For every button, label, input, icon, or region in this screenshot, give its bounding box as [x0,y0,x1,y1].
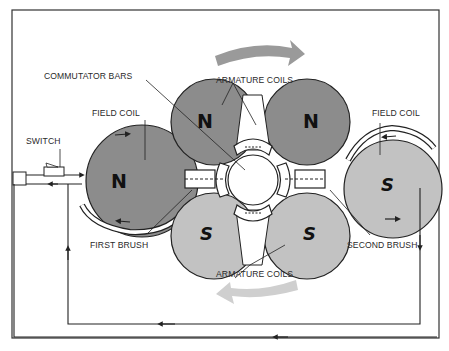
switch[interactable] [44,167,64,176]
rotation-arrow-top [215,40,305,66]
label-field-coil-right: FIELD COIL [372,108,420,118]
switch-lever-icon [46,163,58,167]
label-switch: SWITCH [26,136,61,146]
pole-field-left: N [111,170,127,192]
commutator-core [228,155,278,205]
label-first-brush: FIRST BRUSH [90,240,148,250]
label-second-brush: SECOND BRUSH [347,240,417,250]
label-commutator-bars: COMMUTATOR BARS [44,71,132,81]
pole-armature-top-right: N [303,110,319,132]
pole-field-right: S [381,174,394,195]
pole-armature-top-left: N [197,110,213,132]
terminal [13,172,26,185]
pole-armature-bottom-left: S [200,223,213,244]
rotation-arrow-bottom [216,280,298,304]
pole-armature-bottom-right: S [303,223,316,244]
label-armature-coils-top: ARMATURE COILS [216,75,293,85]
label-field-coil-left: FIELD COIL [92,108,140,118]
label-armature-coils-bottom: ARMATURE COILS [216,269,293,279]
